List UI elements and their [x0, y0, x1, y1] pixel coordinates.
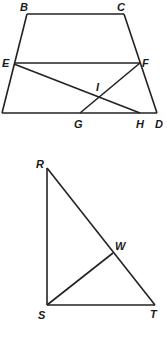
label-g: G — [74, 118, 83, 130]
segment-sw — [47, 253, 113, 305]
label-e: E — [2, 57, 10, 69]
label-c: C — [117, 1, 126, 13]
label-w: W — [115, 240, 127, 252]
trapezoid-figure: B C E F I G H D — [2, 1, 163, 130]
segment-eh — [14, 64, 140, 113]
label-r: R — [36, 158, 44, 170]
label-d: D — [155, 118, 163, 130]
label-i: I — [96, 81, 100, 93]
label-h: H — [136, 118, 145, 130]
triangle-figure: R W S T — [36, 158, 158, 321]
label-b: B — [20, 1, 28, 13]
geometry-diagram: B C E F I G H D R W S T — [0, 0, 168, 353]
label-t: T — [150, 308, 158, 320]
segment-rt — [47, 168, 155, 305]
label-s: S — [38, 309, 46, 321]
segment-fg — [80, 63, 140, 113]
label-f: F — [142, 57, 149, 69]
